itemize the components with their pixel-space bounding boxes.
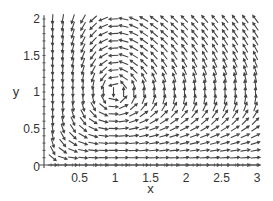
field-arrow xyxy=(101,74,107,81)
x-axis-label: x xyxy=(147,181,154,196)
field-arrow xyxy=(160,149,169,151)
field-arrow xyxy=(190,141,199,144)
field-arrow xyxy=(99,25,107,29)
field-arrow xyxy=(222,118,229,124)
field-arrow xyxy=(141,103,147,110)
field-arrow xyxy=(101,81,105,89)
field-arrow xyxy=(130,112,138,116)
field-arrow xyxy=(191,126,199,130)
field-arrow xyxy=(202,16,208,23)
field-arrow xyxy=(161,111,167,117)
field-arrow xyxy=(182,52,187,60)
field-arrow xyxy=(81,22,86,30)
field-arrow xyxy=(231,141,240,144)
field-arrow xyxy=(170,142,179,145)
field-arrow xyxy=(100,67,107,73)
field-arrow xyxy=(151,31,158,37)
field-arrow xyxy=(192,23,198,30)
field-arrow xyxy=(212,37,217,44)
field-arrow xyxy=(140,17,148,22)
field-arrow xyxy=(150,149,159,151)
field-arrow xyxy=(90,38,96,45)
field-arrow xyxy=(170,134,179,137)
field-arrow xyxy=(60,140,66,147)
field-arrow xyxy=(182,45,187,52)
field-arrow xyxy=(81,30,85,38)
field-arrow xyxy=(171,23,177,29)
field-arrow xyxy=(201,118,208,124)
field-arrow xyxy=(119,157,128,159)
field-arrow xyxy=(140,119,148,123)
x-tick-label: 1 xyxy=(112,171,119,185)
field-arrow xyxy=(192,37,197,44)
field-arrow xyxy=(119,25,128,28)
field-arrow xyxy=(61,15,63,24)
field-arrow xyxy=(130,39,138,43)
field-arrow xyxy=(221,156,230,158)
field-arrow xyxy=(150,16,157,21)
field-arrow xyxy=(171,38,177,45)
field-arrow xyxy=(190,134,199,137)
field-arrow xyxy=(251,134,259,138)
field-arrow xyxy=(221,149,230,151)
field-arrow xyxy=(222,16,228,23)
field-arrow xyxy=(192,110,198,117)
field-arrow xyxy=(251,141,260,144)
field-arrow xyxy=(242,126,250,131)
direction-field-chart: 0.511.522.530.511.52 0 x y xyxy=(0,0,273,201)
field-arrow xyxy=(192,16,198,23)
field-arrow xyxy=(182,37,188,44)
field-arrow xyxy=(151,38,158,44)
field-arrow xyxy=(129,134,138,136)
field-arrow xyxy=(109,120,118,122)
field-arrow xyxy=(100,104,107,110)
field-arrow xyxy=(80,126,87,132)
field-arrow xyxy=(129,142,138,144)
field-arrow xyxy=(119,149,128,151)
field-arrow xyxy=(119,39,128,42)
field-arrow xyxy=(109,98,118,101)
field-arrow xyxy=(119,32,128,35)
field-arrow xyxy=(90,30,96,36)
y-tick-label: 1 xyxy=(33,85,40,99)
field-arrow xyxy=(211,141,220,144)
field-arrow xyxy=(139,142,148,144)
field-arrow xyxy=(139,149,148,151)
field-arrow xyxy=(79,134,87,138)
field-arrow xyxy=(90,23,96,29)
field-arrow xyxy=(150,134,159,137)
field-arrow xyxy=(223,37,228,45)
field-arrow xyxy=(119,46,128,49)
field-arrow xyxy=(243,37,248,45)
x-tick-label: 2 xyxy=(183,171,190,185)
field-arrow xyxy=(141,67,147,74)
field-arrow xyxy=(89,157,98,159)
field-arrow xyxy=(201,126,209,130)
field-arrow xyxy=(109,127,118,129)
field-arrow xyxy=(213,44,218,52)
field-arrow xyxy=(181,23,187,30)
field-arrow xyxy=(172,45,178,52)
field-arrow xyxy=(140,45,147,51)
field-arrow xyxy=(140,111,147,116)
field-arrow xyxy=(129,149,138,151)
field-arrow xyxy=(99,17,107,21)
field-arrow xyxy=(129,127,138,130)
field-arrow xyxy=(202,110,207,117)
field-arrow xyxy=(180,149,189,151)
field-arrow xyxy=(120,75,128,80)
field-arrow xyxy=(69,157,78,159)
field-arrow xyxy=(140,31,147,36)
field-arrow xyxy=(231,156,240,158)
field-arrow xyxy=(253,44,257,52)
field-arrow xyxy=(130,53,138,58)
field-arrow xyxy=(109,106,118,108)
field-arrow xyxy=(233,37,238,45)
origin-tick-label: 0 xyxy=(33,160,40,174)
field-arrow xyxy=(192,45,197,52)
field-arrow xyxy=(151,111,158,117)
field-arrow xyxy=(109,33,118,35)
field-arrow xyxy=(151,52,157,59)
field-arrow xyxy=(223,44,228,52)
field-arrow xyxy=(140,38,147,43)
